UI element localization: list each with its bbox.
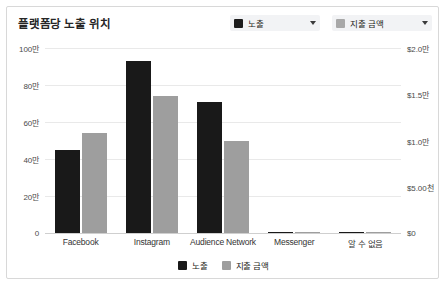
bar-impressions[interactable] xyxy=(268,232,293,234)
y-axis-left-tick-label: 20만 xyxy=(0,191,39,202)
x-axis-tick-label: Facebook xyxy=(63,237,99,247)
x-axis-tick-label: Instagram xyxy=(134,237,170,247)
bar-spend[interactable] xyxy=(295,232,320,234)
legend-item-label: 지출 금액 xyxy=(236,259,269,271)
gridline xyxy=(45,48,401,49)
bar-impressions[interactable] xyxy=(126,61,151,233)
chart-plot-area: 020만40만60만80만100만 $0$5.00천$1.0만$1.5만$2.0… xyxy=(7,37,440,280)
legend-item-label: 노출 xyxy=(192,259,208,271)
y-axis-right-tick-label: $5.00천 xyxy=(407,181,447,192)
legend-item[interactable]: 지출 금액 xyxy=(222,259,269,271)
chart-header: 플랫폼당 노출 위치 노출 지출 금액 xyxy=(7,7,440,37)
bar-spend[interactable] xyxy=(82,133,107,233)
bar-impressions[interactable] xyxy=(197,102,222,233)
y-axis-left-tick-label: 100만 xyxy=(0,43,39,54)
chevron-down-icon[interactable] xyxy=(310,21,316,25)
legend-swatch xyxy=(178,261,187,270)
bar-spend[interactable] xyxy=(153,96,178,233)
series-selector-impressions-label: 노출 xyxy=(248,17,264,29)
chevron-down-icon[interactable] xyxy=(422,21,428,25)
series-swatch-spend xyxy=(336,19,345,28)
series-selector-spend-label: 지출 금액 xyxy=(350,17,383,29)
y-axis-right-tick-label: $1.0만 xyxy=(407,135,447,146)
x-axis-tick-label: Audience Network xyxy=(190,237,256,247)
chart-legend: 노출지출 금액 xyxy=(7,259,440,271)
y-axis-left-tick-label: 0 xyxy=(0,229,39,238)
bar-spend[interactable] xyxy=(366,232,391,234)
y-axis-right-tick-label: $1.5만 xyxy=(407,89,447,100)
chart-grid xyxy=(45,48,401,233)
bar-impressions[interactable] xyxy=(339,232,364,234)
y-axis-left-tick-label: 80만 xyxy=(0,80,39,91)
x-axis-tick-label: Messenger xyxy=(274,237,314,247)
bar-impressions[interactable] xyxy=(55,150,80,233)
gridline xyxy=(45,122,401,123)
bar-spend[interactable] xyxy=(224,141,249,233)
y-axis-right-tick-label: $2.0만 xyxy=(407,43,447,54)
series-selector-spend[interactable]: 지출 금액 xyxy=(332,15,432,31)
x-axis-tick-label: 알 수 없음 xyxy=(348,237,384,249)
series-swatch-impressions xyxy=(234,19,243,28)
legend-swatch xyxy=(222,261,231,270)
y-axis-right-tick-label: $0 xyxy=(407,229,447,238)
legend-item[interactable]: 노출 xyxy=(178,259,208,271)
page-title: 플랫폼당 노출 위치 xyxy=(18,15,110,31)
y-axis-left-tick-label: 60만 xyxy=(0,117,39,128)
gridline xyxy=(45,85,401,86)
series-selector-impressions[interactable]: 노출 xyxy=(230,15,320,31)
gridline xyxy=(45,233,401,234)
chart-card: 플랫폼당 노출 위치 노출 지출 금액 020만40만60만80만100만 $0… xyxy=(6,6,439,279)
y-axis-left-tick-label: 40만 xyxy=(0,154,39,165)
